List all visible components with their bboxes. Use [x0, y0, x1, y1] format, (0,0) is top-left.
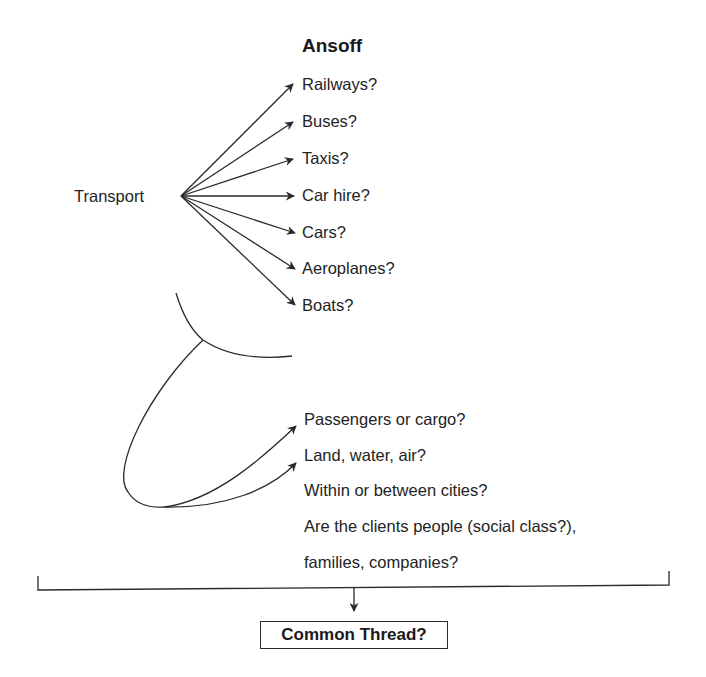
branch-cars: Cars?: [302, 222, 346, 242]
arrow-buses: [181, 122, 293, 196]
loop-curve: [124, 340, 203, 507]
arrow-land: [165, 463, 296, 507]
common-thread-box: Common Thread?: [260, 621, 448, 649]
question-clients-line1: Are the clients people (social class?),: [304, 516, 576, 536]
question-land-water-air: Land, water, air?: [304, 445, 426, 465]
arrow-railways: [181, 84, 293, 196]
branch-car-hire: Car hire?: [302, 185, 370, 205]
question-within-between: Within or between cities?: [304, 480, 487, 500]
question-passengers-cargo: Passengers or cargo?: [304, 409, 465, 429]
diagram-title: Ansoff: [302, 35, 362, 57]
branch-buses: Buses?: [302, 111, 357, 131]
arrow-cars: [181, 196, 295, 233]
grouping-arc: [176, 293, 292, 357]
question-clients-line2: families, companies?: [304, 552, 458, 572]
branch-railways: Railways?: [302, 74, 377, 94]
connector-lines: [0, 0, 706, 677]
arrow-boats: [181, 196, 295, 305]
branch-aeroplanes: Aeroplanes?: [302, 258, 395, 278]
bottom-bracket: [38, 571, 669, 590]
ansoff-diagram: Ansoff Transport Railways? Buses? Taxis?…: [0, 0, 706, 677]
branch-boats: Boats?: [302, 295, 353, 315]
branch-taxis: Taxis?: [302, 148, 349, 168]
arrow-passengers: [165, 426, 296, 507]
arrow-taxis: [181, 159, 293, 196]
root-node: Transport: [74, 186, 144, 206]
arrow-aeroplanes: [181, 196, 295, 269]
